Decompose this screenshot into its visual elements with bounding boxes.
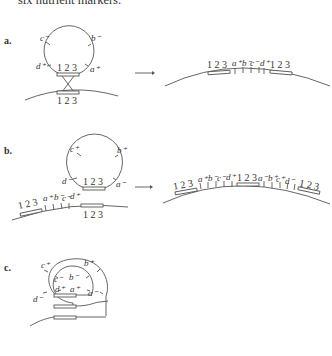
chromosome-genes: 1 2 3 [57,95,77,106]
homology-region [83,187,105,190]
svg-text:d⁺: d⁺ [260,58,271,68]
svg-text:c⁺: c⁺ [41,260,51,270]
inner-homology [54,294,76,297]
marker-d: d⁺ [36,61,47,71]
svg-text:c⁺: c⁺ [70,144,80,154]
svg-text:a⁺: a⁺ [70,284,81,294]
svg-text:d⁻: d⁻ [33,294,44,304]
svg-text:1 2 3: 1 2 3 [83,176,103,187]
svg-text:a⁺: a⁺ [198,174,209,184]
svg-text:1 2 3: 1 2 3 [83,209,103,220]
panel-c: c. c⁺ b⁺ d⁻ a⁻ c⁻ b⁻ d⁺ a⁺ [4,258,108,326]
svg-text:a⁻: a⁻ [88,288,99,298]
chromosome-homology [54,316,76,319]
marker-c: c⁻ [40,33,50,43]
panel-c-label: c. [4,262,11,273]
svg-text:d⁻: d⁻ [285,176,296,186]
homology-region [57,73,79,76]
svg-text:d⁺: d⁺ [226,172,237,182]
svg-text:d⁻: d⁻ [62,176,73,186]
marker-a: a⁺ [90,64,101,74]
svg-text:d⁺: d⁺ [70,191,81,201]
panel-a: a. c⁻ b⁻ d⁺ a⁺ 1 2 3 1 2 3 1 2 3 a⁺ [4,26,330,106]
svg-text:b⁻: b⁻ [69,272,80,282]
strand-right [76,301,108,306]
panel-b: b. c⁺ b⁺ d⁻ a⁻ 1 2 3 1 2 3 a⁺ b⁻ c⁻ d⁺ 1… [4,134,330,220]
svg-text:d⁺: d⁺ [55,284,66,294]
panel-a-label: a. [4,35,12,46]
svg-text:c⁻: c⁻ [54,274,64,284]
panel-b-label: b. [4,145,13,156]
svg-text:a⁺: a⁺ [232,58,243,68]
svg-text:c⁻: c⁻ [250,58,260,68]
svg-text:a⁻: a⁻ [116,179,127,189]
svg-text:1 2 3: 1 2 3 [207,59,227,70]
svg-text:a⁺: a⁺ [43,193,54,203]
svg-text:1 2 3: 1 2 3 [17,196,39,211]
circle-genes: 1 2 3 [57,62,77,73]
marker-b: b⁻ [91,33,102,43]
outer-homology [54,305,76,308]
svg-text:1 2 3: 1 2 3 [270,59,290,70]
result-chromosome [165,68,330,86]
chromosome-homology [57,91,79,94]
svg-text:b⁺: b⁺ [117,145,128,155]
svg-text:a⁻: a⁻ [258,173,269,183]
svg-text:b⁺: b⁺ [84,258,95,268]
integration-diagram: a. c⁻ b⁻ d⁺ a⁺ 1 2 3 1 2 3 1 2 3 a⁺ [0,0,332,356]
svg-text:1 2 3: 1 2 3 [237,172,257,183]
